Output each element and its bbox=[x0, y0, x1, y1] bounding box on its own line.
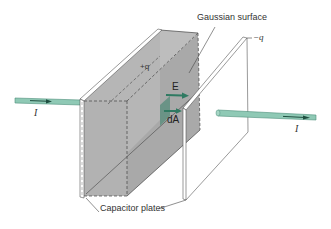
minus-q-label: −q bbox=[253, 33, 264, 42]
right-wire bbox=[216, 110, 316, 120]
left-wire bbox=[15, 98, 81, 105]
plates-leader-left bbox=[86, 198, 99, 212]
capacitor-plates-label: Capacitor plates bbox=[100, 204, 165, 213]
da-label: dA bbox=[167, 115, 179, 125]
plus-q-label: +q bbox=[140, 63, 149, 71]
e-field-label: E bbox=[172, 82, 179, 92]
current-left-label: I bbox=[34, 108, 37, 118]
gaussian-box-front bbox=[84, 101, 127, 196]
gaussian-surface-label: Gaussian surface bbox=[197, 13, 267, 22]
current-right-label: I bbox=[295, 124, 298, 134]
capacitor-diagram bbox=[0, 0, 331, 229]
